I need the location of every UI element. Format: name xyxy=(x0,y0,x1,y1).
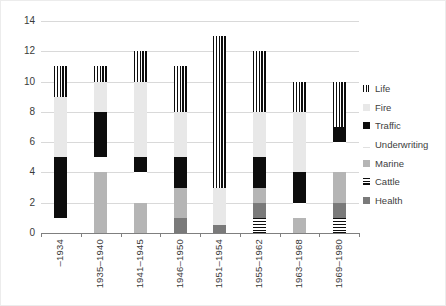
bar-segment-traffic xyxy=(333,127,346,142)
bar-segment-cattle xyxy=(253,218,266,233)
legend-item-marine: Marine xyxy=(363,154,428,173)
x-axis-category-label: 1941–1945 xyxy=(134,239,145,288)
bar-segment-underwriting xyxy=(94,157,107,172)
legend-swatch-life xyxy=(363,85,370,92)
legend-label: Fire xyxy=(375,102,391,113)
legend: LifeFireTrafficUnderwritingMarineCattleH… xyxy=(363,79,428,210)
bar-segment-marine xyxy=(253,188,266,203)
y-axis-tick-label: 2 xyxy=(5,197,35,209)
bar-segment-underwriting xyxy=(54,218,67,233)
bar-segment-traffic xyxy=(253,157,266,187)
gridline xyxy=(41,142,359,143)
stacked-bar-chart: 02468101214 –19341935–19401941–19451946–… xyxy=(0,0,446,306)
bar-segment-fire xyxy=(213,188,226,226)
x-axis-category-label: 1951–1954 xyxy=(213,239,224,288)
legend-label: Underwriting xyxy=(375,139,428,150)
x-axis-category-label: 1946–1950 xyxy=(174,239,185,288)
bar-segment-life xyxy=(213,36,226,187)
x-axis-category-label: 1963–1968 xyxy=(293,239,304,288)
bar-segment-health xyxy=(253,203,266,218)
bar-segment-fire xyxy=(253,112,266,157)
x-axis-category-label: 1955–1962 xyxy=(253,239,264,288)
bar-segment-traffic xyxy=(134,157,147,172)
x-axis-tick xyxy=(200,233,201,237)
bar-segment-health xyxy=(174,218,187,233)
bar-segment-marine xyxy=(94,172,107,233)
legend-item-health: Health xyxy=(363,191,428,210)
legend-item-fire: Fire xyxy=(363,98,428,117)
gridline xyxy=(41,51,359,52)
bar-segment-life xyxy=(134,51,147,81)
legend-swatch-marine xyxy=(363,160,370,167)
x-axis-tick xyxy=(41,233,42,237)
bar-segment-life xyxy=(333,82,346,127)
x-axis-tick xyxy=(81,233,82,237)
legend-item-life: Life xyxy=(363,79,428,98)
legend-item-underwriting: Underwriting xyxy=(363,135,428,154)
bar-segment-health xyxy=(213,225,226,233)
bar-segment-traffic xyxy=(94,112,107,157)
legend-label: Cattle xyxy=(375,176,400,187)
bar-segment-underwriting xyxy=(134,172,147,202)
y-axis-tick-label: 8 xyxy=(5,106,35,118)
bar-segment-health xyxy=(333,203,346,218)
legend-swatch-underwriting xyxy=(363,141,370,148)
x-axis-tick xyxy=(319,233,320,237)
bar-segment-underwriting xyxy=(333,142,346,172)
bar-segment-marine xyxy=(134,203,147,233)
bar-segment-marine xyxy=(174,188,187,218)
bar-segment-life xyxy=(253,51,266,112)
legend-swatch-cattle xyxy=(363,178,370,185)
x-axis-category-label: –1934 xyxy=(54,239,65,266)
legend-item-cattle: Cattle xyxy=(363,172,428,191)
legend-swatch-traffic xyxy=(363,122,370,129)
gridline xyxy=(41,21,359,22)
x-axis-tick xyxy=(280,233,281,237)
bar-segment-cattle xyxy=(333,218,346,233)
bar-segment-fire xyxy=(94,82,107,112)
y-axis-tick-label: 14 xyxy=(5,15,35,27)
x-axis-tick xyxy=(359,233,360,237)
bar-segment-life xyxy=(293,82,306,112)
bar-segment-fire xyxy=(134,82,147,158)
gridline xyxy=(41,203,359,204)
gridline xyxy=(41,112,359,113)
y-axis-tick-label: 12 xyxy=(5,45,35,57)
legend-swatch-health xyxy=(363,197,370,204)
x-axis-tick xyxy=(121,233,122,237)
bar-segment-fire xyxy=(54,97,67,158)
legend-label: Health xyxy=(375,195,402,206)
bar-segment-fire xyxy=(174,112,187,157)
y-axis-tick-label: 10 xyxy=(5,76,35,88)
x-axis-category-label: 1969–1980 xyxy=(333,239,344,288)
y-axis-tick-label: 0 xyxy=(5,227,35,239)
gridline xyxy=(41,172,359,173)
bar-segment-underwriting xyxy=(293,203,306,218)
y-axis-tick-label: 4 xyxy=(5,166,35,178)
gridline xyxy=(41,82,359,83)
bar-segment-traffic xyxy=(54,157,67,218)
legend-label: Life xyxy=(375,83,390,94)
x-axis-category-label: 1935–1940 xyxy=(94,239,105,288)
x-axis-tick xyxy=(160,233,161,237)
bar-segment-traffic xyxy=(174,157,187,187)
bar-segment-traffic xyxy=(293,172,306,202)
bar-segment-marine xyxy=(293,218,306,233)
legend-swatch-fire xyxy=(363,104,370,111)
legend-label: Marine xyxy=(375,158,404,169)
bar-segment-marine xyxy=(333,172,346,202)
x-axis-tick xyxy=(240,233,241,237)
bar-segment-life xyxy=(174,66,187,111)
bar-segment-life xyxy=(54,66,67,96)
bar-segment-fire xyxy=(293,112,306,173)
legend-item-traffic: Traffic xyxy=(363,116,428,135)
legend-label: Traffic xyxy=(375,120,401,131)
bar-segment-life xyxy=(94,66,107,81)
y-axis-tick-label: 6 xyxy=(5,136,35,148)
